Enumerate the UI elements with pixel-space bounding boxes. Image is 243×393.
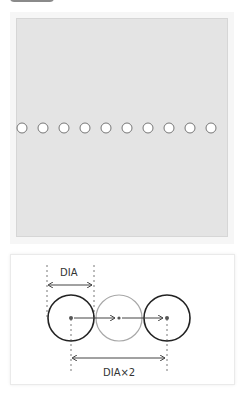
spacing-diagram-card: DIA DIA×2 (10, 254, 235, 385)
top-tab (10, 0, 54, 2)
canvas-area (16, 18, 228, 237)
dia-x2-label: DIA×2 (103, 367, 135, 378)
dia-label: DIA (60, 267, 78, 278)
spacing-diagram: DIA DIA×2 (11, 255, 236, 386)
